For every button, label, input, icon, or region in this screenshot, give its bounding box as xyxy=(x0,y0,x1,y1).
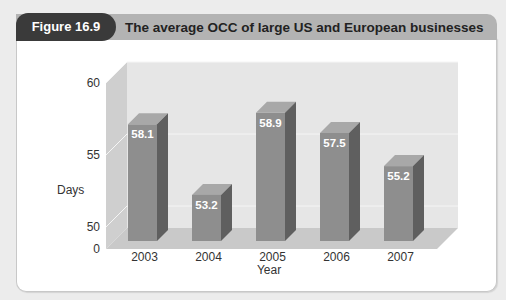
y-tick-label: 50 xyxy=(87,220,101,234)
y-tick-label: 0 xyxy=(93,242,100,256)
bar-2006: 57.5 xyxy=(320,122,360,241)
y-tick-label: 55 xyxy=(87,148,101,162)
y-axis-ticks: 0505560 xyxy=(87,76,101,256)
bar-side-face xyxy=(285,102,296,241)
x-tick-label: 2007 xyxy=(387,250,414,264)
bar-front-face xyxy=(256,113,285,241)
bar-value-label: 53.2 xyxy=(195,199,217,211)
y-axis-title: Days xyxy=(57,183,84,197)
bar-value-label: 58.1 xyxy=(131,128,154,140)
bar-side-face xyxy=(413,155,424,241)
x-axis-title: Year xyxy=(257,263,281,277)
bar-2004: 53.2 xyxy=(192,184,232,241)
bar-side-face xyxy=(349,122,360,241)
x-tick-label: 2005 xyxy=(259,250,286,264)
bar-front-face xyxy=(128,124,157,241)
bar-2003: 58.1 xyxy=(128,113,168,241)
y-tick-label: 60 xyxy=(87,76,101,90)
bar-value-label: 58.9 xyxy=(259,117,281,129)
x-tick-label: 2004 xyxy=(195,250,222,264)
bar-side-face xyxy=(157,113,168,241)
bar-chart: 58.153.258.957.555.2 0505560 20032004200… xyxy=(0,0,506,300)
x-tick-label: 2003 xyxy=(131,250,158,264)
side-wall xyxy=(106,62,127,249)
bar-2005: 58.9 xyxy=(256,102,296,241)
bar-2007: 55.2 xyxy=(384,155,424,241)
bar-value-label: 55.2 xyxy=(387,170,409,182)
x-axis-ticks: 20032004200520062007 xyxy=(131,250,414,264)
bar-front-face xyxy=(320,133,349,241)
x-tick-label: 2006 xyxy=(323,250,350,264)
bar-value-label: 57.5 xyxy=(323,137,346,149)
